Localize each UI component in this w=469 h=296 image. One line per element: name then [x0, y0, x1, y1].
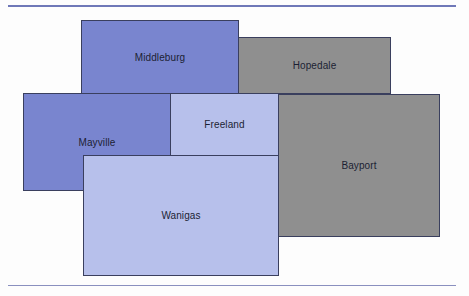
- region-label: Hopedale: [293, 60, 337, 71]
- region-label: Middleburg: [135, 52, 185, 63]
- bottom-rule: [8, 285, 456, 286]
- region-label: Bayport: [341, 160, 376, 171]
- region-wanigas: Wanigas: [83, 155, 279, 276]
- region-hopedale: Hopedale: [238, 37, 391, 94]
- region-bayport: Bayport: [278, 94, 440, 237]
- region-label: Freeland: [204, 119, 244, 130]
- region-middleburg: Middleburg: [81, 20, 239, 94]
- top-rule: [8, 5, 456, 7]
- region-freeland: Freeland: [170, 93, 279, 156]
- region-label: Mayville: [79, 137, 116, 148]
- region-label: Wanigas: [161, 210, 200, 221]
